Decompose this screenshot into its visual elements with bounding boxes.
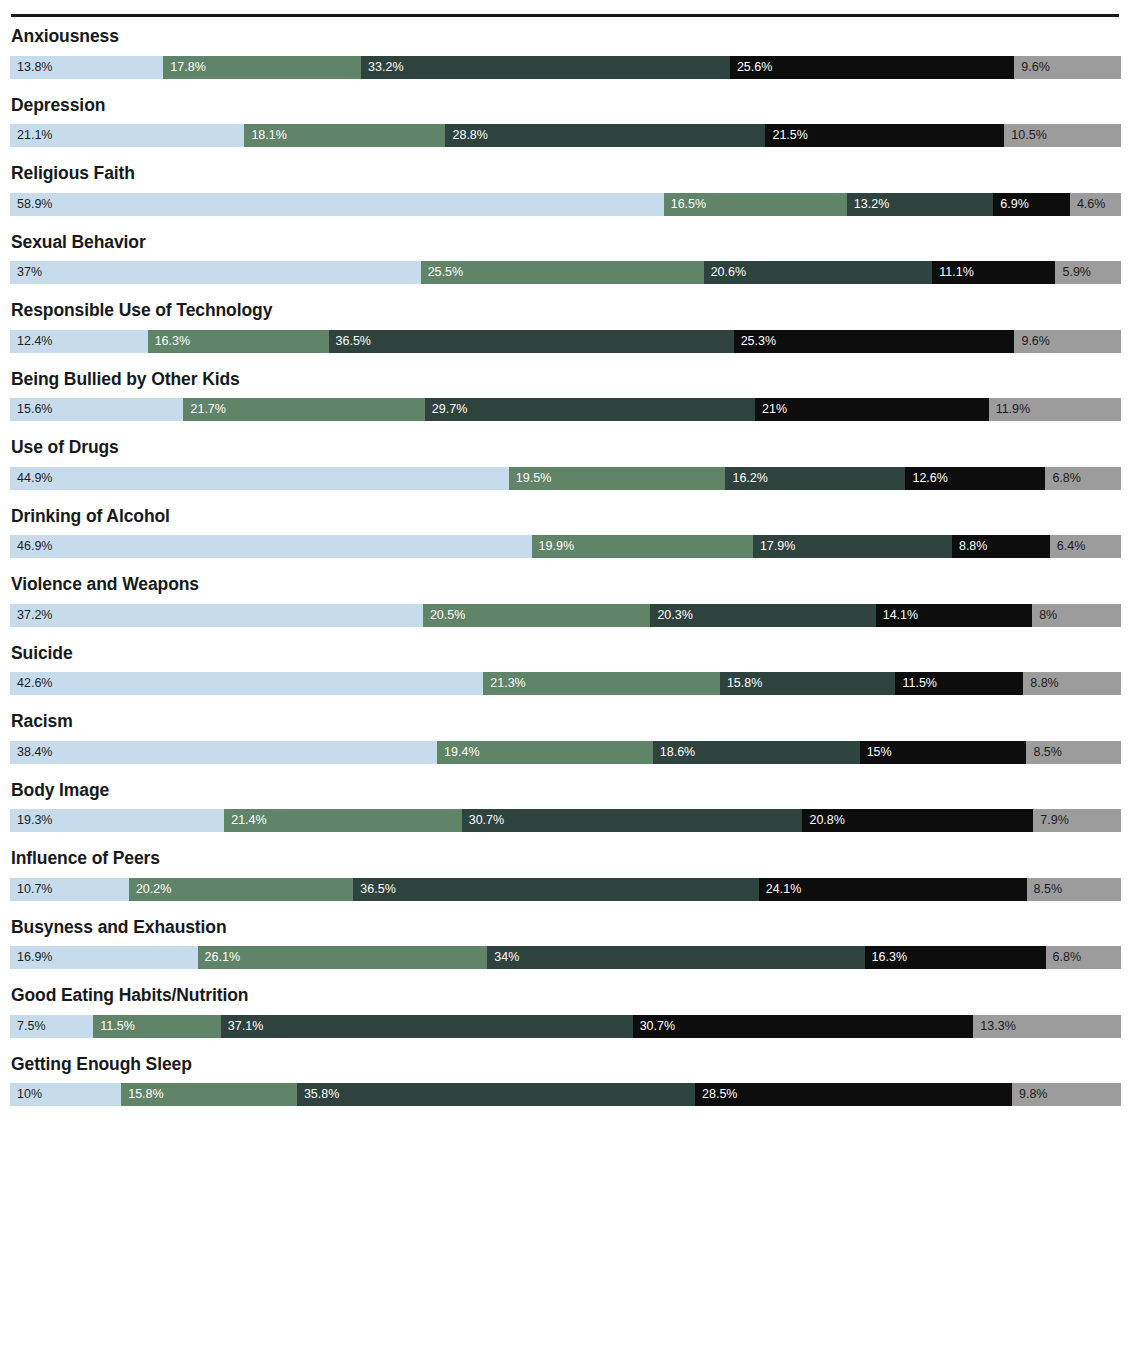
segment-value-label: 7.5% xyxy=(17,1020,46,1033)
segment-value-label: 4.6% xyxy=(1077,198,1106,211)
stacked-bar: 44.9%19.5%16.2%12.6%6.8% xyxy=(10,467,1121,490)
chart-row: Responsible Use of Technology12.4%16.3%3… xyxy=(10,302,1121,353)
bar-segment-4: 8.8% xyxy=(952,535,1050,558)
segment-value-label: 20.8% xyxy=(809,814,844,827)
row-category-label: Anxiousness xyxy=(11,28,1121,46)
bar-segment-5: 6.8% xyxy=(1046,946,1121,969)
bar-segment-3: 37.1% xyxy=(221,1015,633,1038)
chart-row: Religious Faith58.9%16.5%13.2%6.9%4.6% xyxy=(10,165,1121,216)
bar-segment-4: 15% xyxy=(860,741,1027,764)
segment-value-label: 21.5% xyxy=(772,129,807,142)
chart-row: Drinking of Alcohol46.9%19.9%17.9%8.8%6.… xyxy=(10,508,1121,559)
bar-segment-5: 8.5% xyxy=(1027,878,1121,901)
segment-value-label: 13.2% xyxy=(854,198,889,211)
bar-segment-2: 21.4% xyxy=(224,809,462,832)
bar-segment-3: 28.8% xyxy=(445,124,765,147)
row-category-label: Body Image xyxy=(11,782,1121,800)
segment-value-label: 16.5% xyxy=(671,198,706,211)
row-category-label: Sexual Behavior xyxy=(11,234,1121,252)
bar-segment-4: 21% xyxy=(755,398,989,421)
bar-segment-3: 18.6% xyxy=(653,741,860,764)
bar-segment-4: 16.3% xyxy=(865,946,1046,969)
chart-row: Anxiousness13.8%17.8%33.2%25.6%9.6% xyxy=(10,28,1121,79)
bar-segment-2: 20.5% xyxy=(423,604,651,627)
row-category-label: Depression xyxy=(11,97,1121,115)
bar-segment-3: 20.6% xyxy=(704,261,933,284)
segment-value-label: 17.8% xyxy=(170,61,205,74)
stacked-bar: 16.9%26.1%34%16.3%6.8% xyxy=(10,946,1121,969)
segment-value-label: 24.1% xyxy=(766,883,801,896)
bar-segment-1: 10% xyxy=(10,1083,121,1106)
bar-segment-2: 19.9% xyxy=(532,535,753,558)
segment-value-label: 11.9% xyxy=(996,403,1031,416)
bar-segment-5: 4.6% xyxy=(1070,193,1121,216)
segment-value-label: 8.5% xyxy=(1034,883,1063,896)
segment-value-label: 10.5% xyxy=(1011,129,1046,142)
segment-value-label: 9.8% xyxy=(1019,1088,1048,1101)
chart-row: Sexual Behavior37%25.5%20.6%11.1%5.9% xyxy=(10,234,1121,285)
bar-segment-1: 10.7% xyxy=(10,878,129,901)
segment-value-label: 21.4% xyxy=(231,814,266,827)
row-category-label: Getting Enough Sleep xyxy=(11,1056,1121,1074)
segment-value-label: 7.9% xyxy=(1040,814,1069,827)
bar-segment-5: 9.6% xyxy=(1014,56,1121,79)
chart-row: Suicide42.6%21.3%15.8%11.5%8.8% xyxy=(10,645,1121,696)
stacked-bar-chart: Anxiousness13.8%17.8%33.2%25.6%9.6%Depre… xyxy=(0,0,1130,1358)
segment-value-label: 21.1% xyxy=(17,129,52,142)
segment-value-label: 20.6% xyxy=(711,266,746,279)
bar-segment-1: 21.1% xyxy=(10,124,244,147)
stacked-bar: 15.6%21.7%29.7%21%11.9% xyxy=(10,398,1121,421)
segment-value-label: 6.8% xyxy=(1053,951,1082,964)
bar-segment-5: 8.8% xyxy=(1023,672,1121,695)
segment-value-label: 26.1% xyxy=(205,951,240,964)
segment-value-label: 8.5% xyxy=(1033,746,1062,759)
bar-segment-3: 33.2% xyxy=(361,56,730,79)
segment-value-label: 46.9% xyxy=(17,540,52,553)
segment-value-label: 19.3% xyxy=(17,814,52,827)
bar-segment-4: 6.9% xyxy=(993,193,1070,216)
segment-value-label: 18.6% xyxy=(660,746,695,759)
segment-value-label: 15.8% xyxy=(128,1088,163,1101)
bar-segment-1: 44.9% xyxy=(10,467,509,490)
bar-segment-1: 12.4% xyxy=(10,330,148,353)
segment-value-label: 37% xyxy=(17,266,42,279)
segment-value-label: 16.2% xyxy=(732,472,767,485)
segment-value-label: 8.8% xyxy=(959,540,988,553)
bar-segment-2: 25.5% xyxy=(421,261,704,284)
segment-value-label: 16.3% xyxy=(155,335,190,348)
bar-segment-2: 15.8% xyxy=(121,1083,297,1106)
segment-value-label: 21.7% xyxy=(190,403,225,416)
bar-segment-5: 9.6% xyxy=(1014,330,1121,353)
bar-segment-4: 11.1% xyxy=(932,261,1055,284)
bar-segment-5: 11.9% xyxy=(989,398,1121,421)
bar-segment-4: 20.8% xyxy=(802,809,1033,832)
bar-segment-2: 17.8% xyxy=(163,56,361,79)
bar-segment-2: 21.7% xyxy=(183,398,424,421)
bar-segment-3: 16.2% xyxy=(725,467,905,490)
bar-segment-4: 25.3% xyxy=(734,330,1015,353)
bar-segment-1: 38.4% xyxy=(10,741,437,764)
bar-segment-2: 26.1% xyxy=(198,946,488,969)
bar-segment-4: 12.6% xyxy=(905,467,1045,490)
segment-value-label: 20.2% xyxy=(136,883,171,896)
stacked-bar: 37%25.5%20.6%11.1%5.9% xyxy=(10,261,1121,284)
row-category-label: Busyness and Exhaustion xyxy=(11,919,1121,937)
segment-value-label: 16.3% xyxy=(872,951,907,964)
stacked-bar: 13.8%17.8%33.2%25.6%9.6% xyxy=(10,56,1121,79)
bar-segment-1: 46.9% xyxy=(10,535,532,558)
segment-value-label: 30.7% xyxy=(469,814,504,827)
bar-segment-3: 30.7% xyxy=(462,809,803,832)
bar-segment-2: 21.3% xyxy=(483,672,720,695)
segment-value-label: 6.4% xyxy=(1057,540,1086,553)
segment-value-label: 37.2% xyxy=(17,609,52,622)
row-category-label: Being Bullied by Other Kids xyxy=(11,371,1121,389)
segment-value-label: 38.4% xyxy=(17,746,52,759)
segment-value-label: 14.1% xyxy=(883,609,918,622)
segment-value-label: 33.2% xyxy=(368,61,403,74)
segment-value-label: 36.5% xyxy=(336,335,371,348)
bar-segment-2: 16.3% xyxy=(148,330,329,353)
bar-segment-3: 17.9% xyxy=(753,535,952,558)
row-category-label: Drinking of Alcohol xyxy=(11,508,1121,526)
segment-value-label: 19.4% xyxy=(444,746,479,759)
bar-segment-5: 13.3% xyxy=(973,1015,1121,1038)
